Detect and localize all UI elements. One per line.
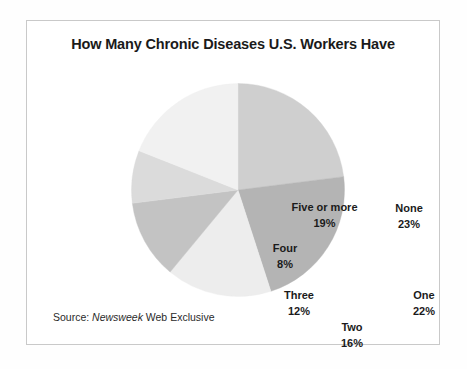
pie-slice-group xyxy=(132,84,345,297)
pie-chart-svg xyxy=(131,83,345,297)
chart-figure: How Many Chronic Diseases U.S. Workers H… xyxy=(0,0,467,369)
source-suffix: Web Exclusive xyxy=(146,311,215,323)
pie-slice-none xyxy=(238,84,344,191)
source-prefix: Source: xyxy=(53,311,89,323)
pie-chart: None 23% One 22% Two 16% Three 12% Four … xyxy=(131,83,345,297)
source-publication: Newsweek xyxy=(92,311,143,323)
source-note: Source: Newsweek Web Exclusive xyxy=(53,311,214,323)
page-title: How Many Chronic Diseases U.S. Workers H… xyxy=(26,36,440,52)
